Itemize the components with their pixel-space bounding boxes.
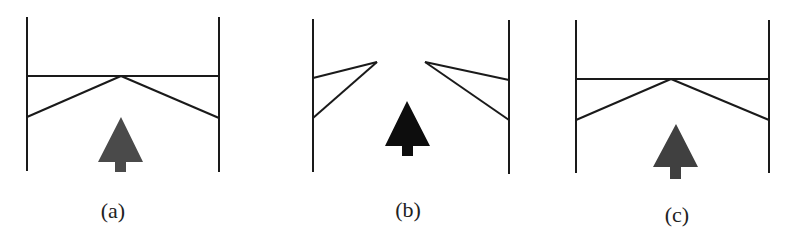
left-diagonal [27,76,121,117]
panel-c: (c) [576,20,769,227]
panel-b: (b) [313,19,509,222]
panel-label-b: (b) [395,197,421,222]
right-diagonal [671,79,769,120]
left-diagonal [576,79,671,120]
up-arrow-icon [653,124,698,179]
figure-diagram: (a) (b) (c) [0,0,789,242]
up-arrow-icon [385,101,430,156]
panel-label-a: (a) [101,198,125,223]
panel-label-c: (c) [665,202,689,227]
up-arrow-icon [98,117,143,172]
panel-a: (a) [27,17,219,223]
right-diagonal [121,76,219,118]
